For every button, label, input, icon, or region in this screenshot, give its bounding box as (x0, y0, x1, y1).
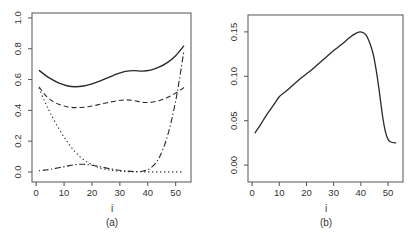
y-tick-label: 0.2 (12, 135, 23, 148)
two-panel-line-figure: 010203040500.00.20.40.60.81.0 0102030405… (0, 0, 419, 245)
y-tick-label: 0.8 (12, 42, 23, 55)
dashed-curve (39, 87, 184, 108)
y-tick-label: 0.05 (228, 111, 239, 130)
x-tick-label: 40 (356, 187, 367, 198)
x-tick-label: 20 (87, 187, 98, 198)
plot-a-xaxis-label: i (111, 203, 113, 214)
plot-a-caption: (a) (106, 217, 118, 228)
y-tick-label: 0.4 (12, 104, 23, 117)
x-tick-label: 10 (274, 187, 285, 198)
y-tick-label: 0.00 (228, 156, 239, 175)
plot-a-canvas: 010203040500.00.20.40.60.81.0 (0, 0, 209, 245)
x-tick-label: 30 (328, 187, 339, 198)
dotdash-curve (39, 50, 184, 171)
plot-b-caption: (b) (320, 217, 332, 228)
solid-curve (39, 46, 184, 87)
x-tick-label: 50 (170, 187, 181, 198)
plot-b-canvas: 010203040500.000.050.100.15 (210, 0, 419, 245)
solid-curve (255, 32, 396, 143)
x-tick-label: 0 (249, 187, 254, 198)
x-tick-label: 30 (115, 187, 126, 198)
x-tick-label: 40 (142, 187, 153, 198)
y-tick-label: 1.0 (12, 11, 23, 24)
x-tick-label: 10 (59, 187, 70, 198)
x-tick-label: 50 (383, 187, 394, 198)
plot-b-xaxis-label: i (325, 203, 327, 214)
y-tick-label: 0.0 (12, 165, 23, 178)
dotted-curve (39, 88, 184, 172)
y-tick-label: 0.15 (228, 23, 239, 42)
y-tick-label: 0.10 (228, 67, 239, 86)
y-tick-label: 0.6 (12, 73, 23, 86)
x-tick-label: 0 (34, 187, 39, 198)
x-tick-label: 20 (301, 187, 312, 198)
